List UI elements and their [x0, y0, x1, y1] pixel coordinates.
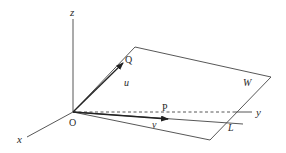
line-l-label: L [227, 122, 234, 133]
x-axis-label: x [16, 133, 22, 145]
origin-label: O [69, 117, 76, 128]
point-p-label: P [162, 102, 168, 113]
geometry-diagram: z x y O Q P u v W L [0, 0, 286, 153]
z-axis-label: z [69, 6, 75, 18]
vector-u [73, 63, 123, 112]
plane-w [73, 47, 271, 140]
vector-u-label: u [124, 77, 129, 88]
point-q-label: Q [125, 54, 133, 65]
vector-v [73, 112, 168, 119]
plane-w-label: W [243, 77, 253, 88]
x-axis [27, 112, 73, 137]
vector-v-label: v [152, 119, 157, 130]
y-axis-label: y [255, 106, 261, 118]
